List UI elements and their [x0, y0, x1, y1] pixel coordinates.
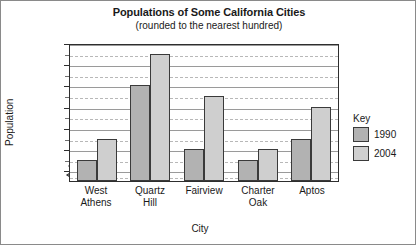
legend: Key 19902004: [353, 113, 415, 165]
x-tick-label-line2: Athens: [69, 197, 123, 209]
x-tick-label-line1: West: [69, 185, 123, 197]
bar-group: [291, 45, 331, 181]
chart-figure: Populations of Some California Cities (r…: [0, 0, 416, 245]
bar-2004: [258, 149, 278, 181]
legend-title: Key: [353, 113, 415, 124]
bar-group: [184, 45, 224, 181]
legend-label: 2004: [374, 148, 396, 159]
bar-2004: [97, 139, 117, 181]
bar-2004: [311, 107, 331, 181]
bar-group: [238, 45, 278, 181]
x-tick-label: QuartzHill: [123, 185, 177, 219]
y-axis-ticks: 10,000980096009400920090008800: [1, 1, 69, 245]
x-tick-label-line2: Oak: [231, 197, 285, 209]
legend-item-2004: 2004: [353, 146, 415, 161]
x-tick-label-line1: Charter: [231, 185, 285, 197]
x-tick-label: Fairview: [177, 185, 231, 219]
x-tick-label: CharterOak: [231, 185, 285, 219]
bar-1990: [130, 85, 150, 181]
bar-group: [130, 45, 170, 181]
x-axis-title: City: [61, 223, 339, 234]
bar-group: [77, 45, 117, 181]
bar-1990: [184, 149, 204, 181]
bar-2004: [150, 54, 170, 181]
bar-groups: [70, 45, 338, 181]
bar-1990: [77, 160, 97, 181]
x-tick-label-line1: Fairview: [177, 185, 231, 197]
bar-2004: [204, 96, 224, 181]
legend-item-1990: 1990: [353, 127, 415, 142]
legend-rows: 19902004: [353, 127, 415, 161]
x-axis-ticks: WestAthensQuartzHillFairviewCharterOakAp…: [69, 185, 339, 219]
bar-1990: [291, 139, 311, 181]
legend-swatch-2004: [353, 146, 369, 161]
legend-label: 1990: [374, 129, 396, 140]
plot-area: [69, 44, 339, 182]
x-tick-label: WestAthens: [69, 185, 123, 219]
x-tick-label-line2: Hill: [123, 197, 177, 209]
x-tick-label-line1: Quartz: [123, 185, 177, 197]
x-tick-label-line1: Aptos: [285, 185, 339, 197]
x-tick-label: Aptos: [285, 185, 339, 219]
legend-swatch-1990: [353, 127, 369, 142]
bar-1990: [238, 160, 258, 181]
